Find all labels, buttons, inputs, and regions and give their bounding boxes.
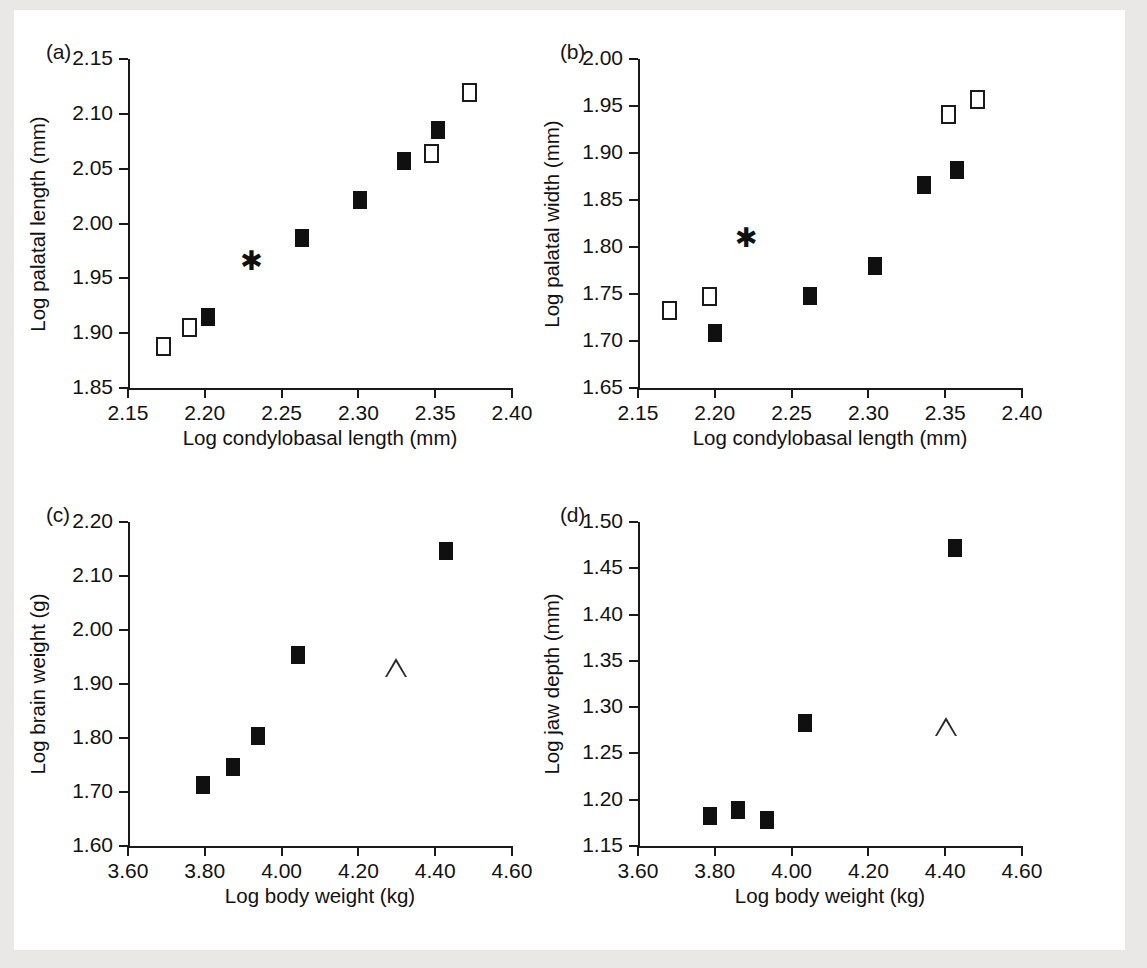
y-tick-label-d-6: 1.45 (543, 555, 623, 579)
x-tick-d-2 (791, 847, 793, 856)
y-tick-d-1 (629, 799, 638, 801)
y-tick-d-4 (629, 660, 638, 662)
data-point-filled-square (703, 807, 717, 825)
y-axis-line-d (638, 522, 640, 848)
panel-d: (d)3.603.804.004.204.404.601.151.201.251… (0, 0, 1147, 968)
y-tick-d-7 (629, 521, 638, 523)
data-point-open-triangle (935, 717, 957, 736)
x-axis-title-d: Log body weight (kg) (610, 884, 1050, 908)
y-axis-title-d: Log jaw depth (mm) (540, 593, 564, 774)
x-tick-d-3 (867, 847, 869, 856)
y-tick-d-5 (629, 614, 638, 616)
y-tick-d-3 (629, 706, 638, 708)
y-tick-label-d-0: 1.15 (543, 833, 623, 857)
data-point-filled-square (731, 801, 745, 819)
figure-four-panel-scatter: (a)2.152.202.252.302.352.401.851.901.952… (0, 0, 1147, 968)
data-point-filled-square (948, 539, 962, 557)
x-tick-d-0 (637, 847, 639, 856)
x-tick-d-5 (1021, 847, 1023, 856)
x-tick-d-1 (714, 847, 716, 856)
x-tick-d-4 (944, 847, 946, 856)
x-axis-line-d (638, 846, 1023, 848)
x-tick-label-d-5: 4.60 (977, 859, 1067, 883)
y-tick-d-2 (629, 752, 638, 754)
y-tick-d-6 (629, 567, 638, 569)
data-point-filled-square (798, 714, 812, 732)
y-tick-d-0 (629, 845, 638, 847)
y-tick-label-d-7: 1.50 (543, 509, 623, 533)
data-point-filled-square (760, 811, 774, 829)
y-tick-label-d-1: 1.20 (543, 787, 623, 811)
